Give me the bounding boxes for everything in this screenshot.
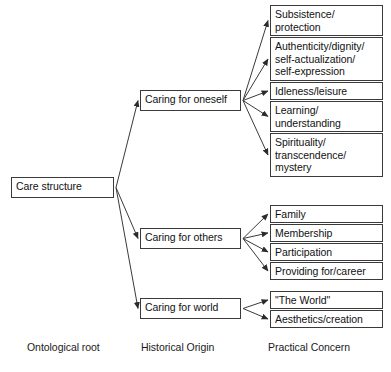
- edge-origin-1-concern-6: [243, 233, 268, 239]
- node-concern-0[interactable]: Subsistence/ protection: [270, 5, 383, 36]
- edge-group: [116, 21, 268, 320]
- node-origin-0[interactable]: Caring for oneself: [140, 90, 241, 111]
- node-concern-7[interactable]: Participation: [270, 243, 383, 261]
- node-origin-1[interactable]: Caring for others: [140, 228, 241, 249]
- node-concern-10[interactable]: Aesthetics/creation: [270, 310, 383, 328]
- care-structure-diagram: Care structureCaring for oneselfCaring f…: [0, 0, 391, 372]
- edge-origin-2-concern-10: [243, 309, 268, 320]
- node-concern-4[interactable]: Spirituality/ transcendence/ mystery: [270, 133, 383, 177]
- node-concern-2[interactable]: Idleness/leisure: [270, 82, 383, 100]
- node-concern-5[interactable]: Family: [270, 205, 383, 223]
- edge-root-to-origin-2: [116, 188, 138, 309]
- column-label-0: Ontological root: [27, 341, 100, 353]
- edge-origin-1-concern-5: [243, 214, 268, 239]
- column-label-2: Practical Concern: [268, 341, 350, 353]
- node-concern-8[interactable]: Providing for/career: [270, 262, 383, 280]
- edge-origin-2-concern-9: [243, 300, 268, 309]
- edge-origin-1-concern-7: [243, 239, 268, 253]
- node-concern-3[interactable]: Learning/ understanding: [270, 101, 383, 132]
- edge-root-to-origin-0: [116, 101, 138, 188]
- column-label-1: Historical Origin: [141, 341, 214, 353]
- edge-root-to-origin-1: [116, 188, 138, 239]
- edge-origin-1-concern-8: [243, 239, 268, 272]
- edge-origin-0-concern-0: [243, 21, 268, 101]
- node-origin-2[interactable]: Caring for world: [140, 298, 241, 319]
- node-concern-9[interactable]: "The World": [270, 291, 383, 309]
- edge-origin-0-concern-2: [243, 91, 268, 101]
- node-care-structure[interactable]: Care structure: [11, 177, 114, 198]
- node-concern-1[interactable]: Authenticity/dignity/ self-actualization…: [270, 37, 383, 81]
- edge-origin-0-concern-1: [243, 59, 268, 101]
- node-concern-6[interactable]: Membership: [270, 224, 383, 242]
